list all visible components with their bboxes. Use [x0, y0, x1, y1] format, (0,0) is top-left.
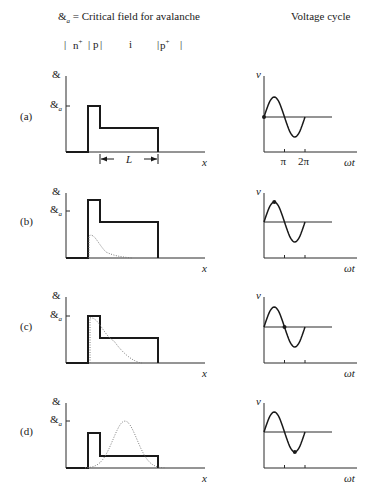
field-profile [66, 433, 158, 468]
voltage-axis-label: v [256, 68, 261, 80]
time-axis-label: ωt [344, 472, 355, 484]
field-axis-label: & [52, 289, 61, 301]
panel-label-d: (d) [20, 425, 33, 437]
carrier-density-curve [89, 235, 132, 258]
field-profile [66, 316, 158, 363]
field-axis-label: & [52, 68, 61, 80]
critical-field-label: &a [50, 98, 62, 113]
critical-field-label: &a [50, 413, 62, 428]
voltage-axis-label: v [256, 395, 261, 407]
panel-label-b: (b) [20, 215, 33, 227]
phase-marker-dot [272, 200, 276, 204]
carrier-density-curve [90, 318, 142, 363]
x-axis-label: x [202, 262, 207, 274]
two-pi-label: 2π [298, 155, 309, 167]
field-axis-label: & [52, 185, 61, 197]
critical-field-label: &a [50, 308, 62, 323]
x-axis-label: x [202, 367, 207, 379]
x-axis-label: x [202, 472, 207, 484]
time-axis-label: ωt [344, 262, 355, 274]
field-profile [66, 200, 158, 258]
voltage-axis-label: v [256, 185, 261, 197]
carrier-density-curve [85, 421, 165, 468]
x-axis-label: x [202, 156, 207, 168]
time-axis-label: ωt [344, 367, 355, 379]
phase-marker-dot [293, 450, 297, 454]
phase-marker-dot [283, 325, 287, 329]
field-axis-label: & [52, 395, 61, 407]
voltage-axis-label: v [256, 289, 261, 301]
time-axis-label: ωt [344, 156, 355, 168]
length-label: L [126, 153, 132, 165]
field-profile [66, 106, 158, 152]
panel-label-a: (a) [20, 110, 32, 122]
panel-label-c: (c) [20, 320, 32, 332]
critical-field-label: &a [50, 203, 62, 218]
arrowhead-right-icon [151, 157, 157, 162]
pi-label: π [281, 155, 287, 167]
phase-marker-dot [262, 115, 266, 119]
arrowhead-left-icon [101, 157, 107, 162]
